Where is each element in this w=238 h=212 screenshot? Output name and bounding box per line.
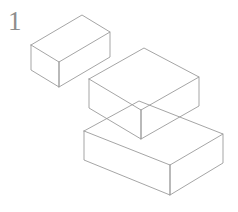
figure-number-label: 1 (8, 6, 22, 36)
partial-bottom-caption (28, 206, 208, 212)
isometric-figure: 1 (0, 0, 238, 212)
isometric-boxes-drawing (0, 0, 238, 212)
